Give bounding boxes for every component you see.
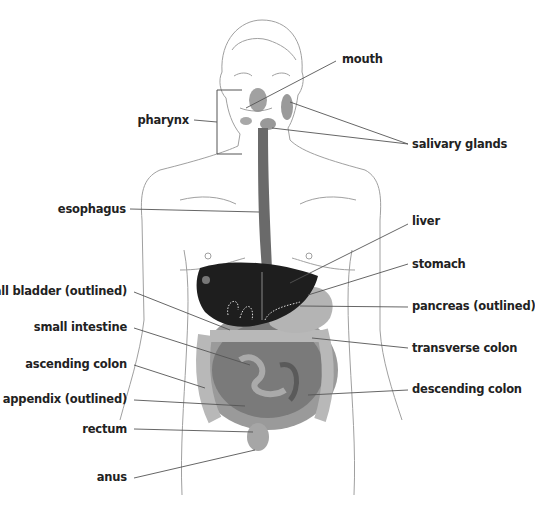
label-liver: liver [412,214,440,228]
esophagus-shape [258,128,272,270]
label-esophagus: esophagus [58,202,126,216]
label-salivary-glands: salivary glands [412,137,507,151]
label-appendix: appendix (outlined) [3,392,127,406]
label-rectum: rectum [82,422,127,436]
label-descending-colon: descending colon [412,382,522,396]
label-mouth: mouth [342,52,383,66]
label-gall-bladder: gall bladder (outlined) [0,284,127,298]
intestines [198,310,338,451]
label-anus: anus [97,470,127,484]
label-pharynx: pharynx [137,113,189,127]
label-transverse-colon: transverse colon [412,341,517,355]
label-ascending-colon: ascending colon [25,357,127,371]
mouth-region [240,88,293,130]
digestive-system-diagram: mouth salivary glands liver stomach panc… [0,0,535,508]
label-stomach: stomach [412,257,466,271]
label-pancreas: pancreas (outlined) [412,299,535,313]
anatomy-illustration [0,0,535,508]
label-small-intestine: small intestine [34,320,127,334]
